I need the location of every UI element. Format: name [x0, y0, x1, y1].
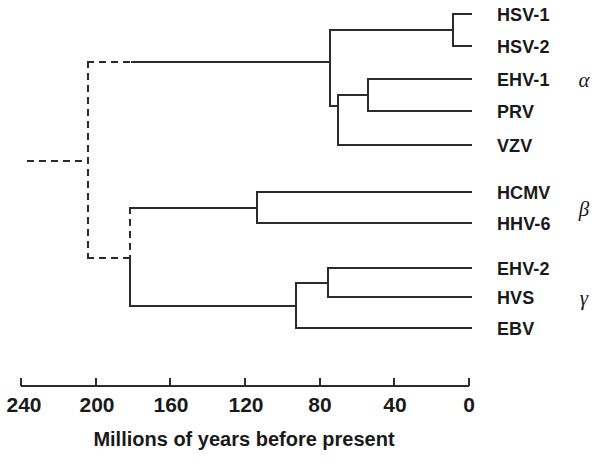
axis-tick-label-160: 160 — [153, 393, 188, 417]
tip-label-hhv6: HHV-6 — [497, 214, 551, 235]
group-label-beta: β — [579, 197, 589, 222]
axis-tick-label-40: 40 — [383, 393, 406, 417]
axis-tick-label-240: 240 — [6, 393, 41, 417]
tip-label-ehv1: EHV-1 — [497, 70, 550, 91]
axis-tick-label-120: 120 — [228, 393, 263, 417]
time-axis — [21, 378, 469, 386]
tip-label-vzv: VZV — [497, 136, 532, 157]
tip-label-hsv2: HSV-2 — [497, 37, 550, 58]
group-label-gamma: γ — [580, 286, 588, 311]
tip-label-prv: PRV — [497, 102, 534, 123]
tree-branches-solid — [129, 13, 472, 329]
tip-label-hsv1: HSV-1 — [497, 5, 550, 26]
axis-tick-label-0: 0 — [463, 393, 475, 417]
caption-text — [0, 455, 609, 467]
group-label-alpha: α — [578, 68, 589, 93]
tip-label-ebv: EBV — [497, 319, 534, 340]
axis-tick-label-80: 80 — [308, 393, 331, 417]
root-branches — [27, 61, 133, 259]
tip-label-hcmv: HCMV — [497, 183, 550, 204]
tip-label-hvs: HVS — [497, 288, 534, 309]
axis-title: Millions of years before present — [93, 428, 394, 451]
tip-label-ehv2: EHV-2 — [497, 259, 550, 280]
axis-tick-label-200: 200 — [79, 393, 114, 417]
figure-container: HSV-1 HSV-2 EHV-1 PRV VZV HCMV HHV-6 EHV… — [0, 0, 609, 467]
